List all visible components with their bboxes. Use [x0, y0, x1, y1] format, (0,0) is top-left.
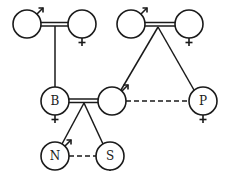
pedigree-diagram: B P N S [0, 0, 229, 171]
male-symbol-icon [37, 8, 43, 14]
node-label-s: S [106, 149, 114, 163]
node-n: N [41, 140, 71, 170]
node-gp2-female [175, 10, 203, 46]
female-symbol-icon [52, 115, 59, 123]
node-label-b: B [51, 94, 60, 108]
male-symbol-icon [141, 8, 147, 14]
node-s: S [96, 142, 124, 171]
marriage-line-gp2 [145, 23, 175, 27]
node-p: P [189, 87, 217, 123]
node-spouse-male [98, 85, 128, 115]
node-gp1-female [68, 10, 96, 46]
female-symbol-icon [186, 38, 193, 46]
node-b: B [41, 87, 69, 123]
node-label-n: N [50, 149, 61, 163]
male-symbol-icon [65, 140, 71, 146]
female-symbol-icon [200, 115, 207, 123]
female-symbol-icon [79, 38, 86, 46]
marriage-line-b [69, 99, 98, 103]
node-label-p: P [199, 94, 207, 108]
marriage-line-gp1 [41, 23, 68, 27]
node-gp2-male [117, 8, 147, 38]
node-gp1-male [13, 8, 43, 38]
